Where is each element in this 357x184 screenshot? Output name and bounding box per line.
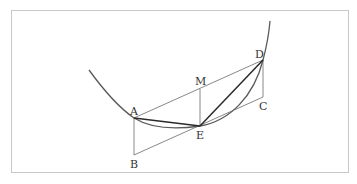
chord-a-e: [134, 118, 200, 126]
geometry-figure: A B C D E M: [0, 0, 357, 184]
segment-a-d: [134, 60, 263, 118]
label-point-d: D: [255, 48, 264, 61]
label-point-b: B: [130, 158, 138, 171]
label-point-c: C: [259, 100, 267, 113]
chord-e-d: [200, 60, 263, 126]
label-point-a: A: [129, 105, 139, 118]
convex-curve: [89, 21, 270, 128]
label-point-m: M: [195, 75, 206, 88]
figure-frame: [12, 11, 349, 173]
label-point-e: E: [196, 129, 204, 142]
